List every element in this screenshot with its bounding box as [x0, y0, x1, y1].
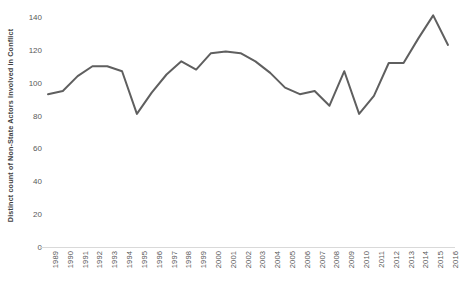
y-axis-title-text: Distinct count of Non-State Actors Invol… [7, 28, 16, 221]
series-line-distinct-count-of-non-state-actors [48, 15, 448, 114]
x-axis-tick-2004: 2004 [273, 251, 282, 268]
y-axis-tick-120: 120 [29, 45, 42, 54]
plot-area [47, 17, 450, 247]
x-axis-tick-2014: 2014 [421, 251, 430, 268]
x-axis-tick-2011: 2011 [377, 251, 386, 268]
y-axis-title: Distinct count of Non-State Actors Invol… [0, 0, 22, 250]
x-axis-tick-2010: 2010 [362, 251, 371, 268]
y-axis-tick-80: 80 [33, 111, 42, 120]
x-axis-tick-2013: 2013 [407, 251, 416, 268]
y-axis-tick-140: 140 [29, 13, 42, 22]
x-axis-tick-2006: 2006 [303, 251, 312, 268]
x-axis-tick-1997: 1997 [170, 251, 179, 268]
x-axis-tick-2015: 2015 [436, 251, 445, 268]
x-axis-tick-2001: 2001 [229, 251, 238, 268]
y-axis-tick-20: 20 [33, 210, 42, 219]
x-axis-tick-2007: 2007 [318, 251, 327, 268]
x-axis-tick-1995: 1995 [140, 251, 149, 268]
x-axis-tick-1993: 1993 [110, 251, 119, 268]
x-axis-tick-2005: 2005 [288, 251, 297, 268]
x-axis-tick-2009: 2009 [347, 251, 356, 268]
x-axis-tick-2016: 2016 [451, 251, 460, 268]
x-axis-tick-2008: 2008 [332, 251, 341, 268]
x-axis-tick-2000: 2000 [214, 251, 223, 268]
x-axis-tick-1994: 1994 [125, 251, 134, 268]
x-axis-tick-1990: 1990 [66, 251, 75, 268]
x-axis-tick-labels: 1989199019911992199319941995199619971998… [0, 249, 461, 295]
x-axis-tick-1992: 1992 [95, 251, 104, 268]
x-axis-line [40, 247, 455, 248]
x-axis-tick-1996: 1996 [155, 251, 164, 268]
y-axis-tick-40: 40 [33, 177, 42, 186]
line-chart: Distinct count of Non-State Actors Invol… [0, 0, 461, 295]
x-axis-tick-1991: 1991 [81, 251, 90, 268]
x-axis-tick-2012: 2012 [392, 251, 401, 268]
x-axis-tick-2003: 2003 [258, 251, 267, 268]
x-axis-tick-1999: 1999 [199, 251, 208, 268]
y-axis-tick-60: 60 [33, 144, 42, 153]
x-axis-tick-2002: 2002 [244, 251, 253, 268]
x-axis-tick-1998: 1998 [184, 251, 193, 268]
series-line-svg [47, 17, 450, 247]
y-axis-tick-100: 100 [29, 78, 42, 87]
x-axis-tick-1989: 1989 [51, 251, 60, 268]
